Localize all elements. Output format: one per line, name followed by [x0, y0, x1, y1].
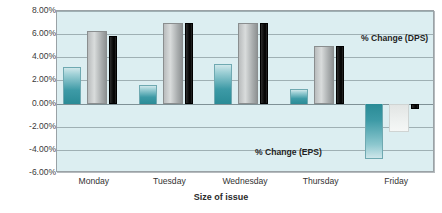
bar [87, 31, 107, 104]
x-axis-title: Size of issue [0, 192, 442, 202]
bar [163, 23, 183, 104]
x-axis-category-label: Thursday [303, 176, 339, 186]
bar [109, 36, 117, 103]
bar [290, 89, 308, 104]
plot-area: % Change (DPS)% Change (EPS) [56, 10, 434, 172]
bar [139, 85, 157, 104]
gridline [57, 11, 433, 12]
series-annotation: % Change (DPS) [361, 33, 428, 43]
x-axis-category-label: Tuesday [153, 176, 186, 186]
x-axis-category-label: Friday [384, 176, 408, 186]
y-axis-tick-label: -2.00% [4, 121, 56, 131]
bar [238, 23, 258, 104]
bar [314, 46, 334, 104]
series-annotation: % Change (EPS) [255, 147, 322, 157]
y-axis-tick-label: 8.00% [4, 5, 56, 15]
y-axis-tick-label: -6.00% [4, 167, 56, 177]
x-axis-category-label: Monday [79, 176, 110, 186]
bar [411, 104, 419, 110]
bar [214, 64, 232, 103]
y-axis-tick-label: 6.00% [4, 28, 56, 38]
bar-chart: 8.00%6.00%4.00%2.00%0.00%-2.00%-4.00%-6.… [0, 0, 442, 213]
y-axis-tick-label: 4.00% [4, 51, 56, 61]
bar [336, 46, 344, 104]
x-axis-category-label: Wednesday [222, 176, 267, 186]
y-axis-tick-label: -4.00% [4, 144, 56, 154]
bar [63, 67, 81, 104]
y-axis-tick-label: 0.00% [4, 98, 56, 108]
bar [185, 23, 193, 104]
bar [389, 104, 409, 133]
bar [260, 23, 268, 104]
y-axis-tick-label: 2.00% [4, 74, 56, 84]
bar [365, 104, 383, 160]
